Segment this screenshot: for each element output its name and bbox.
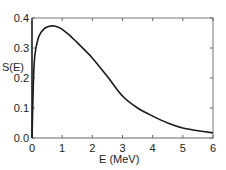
y-tick-label: 0.1	[14, 102, 29, 114]
y-axis-label: S(E)	[2, 61, 24, 73]
x-tick-label: 5	[180, 142, 186, 154]
x-axis-ticks: 0123456	[29, 18, 216, 154]
chart: 0123456 0.00.10.20.30.4 S(E) E (MeV)	[0, 0, 226, 170]
x-tick-label: 4	[150, 142, 156, 154]
x-tick-label: 1	[59, 142, 65, 154]
y-tick-label: 0.0	[14, 132, 29, 144]
x-tick-label: 6	[210, 142, 216, 154]
x-axis-label: E (MeV)	[99, 153, 139, 165]
y-tick-label: 0.3	[14, 42, 29, 54]
x-tick-label: 0	[29, 142, 35, 154]
x-tick-label: 2	[89, 142, 95, 154]
y-tick-label: 0.2	[14, 72, 29, 84]
plot-frame	[32, 18, 213, 138]
y-tick-label: 0.4	[14, 12, 29, 24]
spectrum-curve	[32, 26, 213, 138]
y-axis-ticks: 0.00.10.20.30.4	[14, 12, 213, 144]
